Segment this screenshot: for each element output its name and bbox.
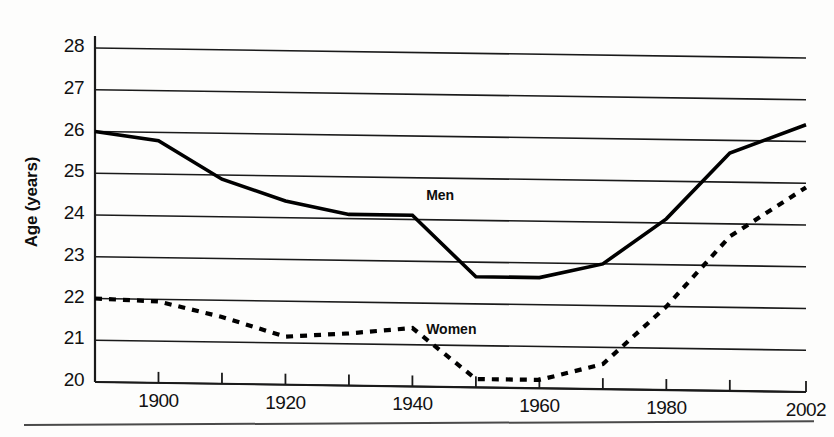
series-label-women: Women <box>426 321 476 337</box>
x-tick-label: 1940 <box>377 393 447 415</box>
x-axis-tick-labels: 190019201940196019802002 <box>0 0 834 437</box>
x-tick-label: 1920 <box>250 392 320 414</box>
x-tick-label: 1980 <box>631 397 701 419</box>
x-tick-label: 1960 <box>504 395 574 417</box>
chart-figure: Age (years) 202122232425262728 190019201… <box>0 0 834 437</box>
x-tick-label: 1900 <box>123 390 193 412</box>
x-tick-label: 2002 <box>771 399 834 421</box>
series-label-men: Men <box>426 187 454 203</box>
